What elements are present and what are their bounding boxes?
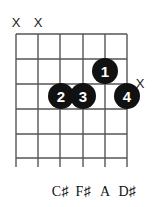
note-label-string-5: A xyxy=(95,185,115,199)
note-label-string-3: C♯ xyxy=(48,185,72,199)
note-label-string-6: D♯ xyxy=(115,185,139,199)
finger-dot-3: 3 xyxy=(70,83,96,109)
finger-dot-1: 1 xyxy=(92,58,118,84)
note-label-string-4: F♯ xyxy=(71,185,95,199)
finger-dot-4: 4 xyxy=(114,83,140,109)
chord-diagram: X X X 1 2 3 4 C♯ F♯ A D♯ xyxy=(0,0,158,207)
